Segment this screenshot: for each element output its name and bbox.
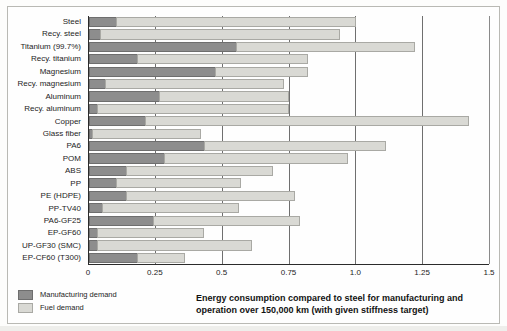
bar-segment	[97, 240, 252, 250]
bar-segment	[89, 116, 145, 126]
y-axis-label: Recy. steel	[0, 28, 85, 40]
bar-segment	[204, 141, 386, 151]
bar-segment	[137, 253, 185, 263]
bar-segment	[126, 166, 273, 176]
bar-row[interactable]	[89, 115, 489, 127]
bar-segment	[116, 178, 242, 188]
legend-item[interactable]: Fuel demand	[18, 301, 188, 314]
bar-segment	[89, 203, 102, 213]
y-axis-label: Titanium (99.7%)	[0, 41, 85, 53]
bar-segment	[126, 191, 294, 201]
bar-row[interactable]	[89, 103, 489, 115]
bar-segment	[89, 54, 137, 64]
bar-segment	[145, 116, 468, 126]
bar-row[interactable]	[89, 90, 489, 102]
y-axis-label: PP-TV40	[0, 203, 85, 215]
scan-edge-shading	[0, 326, 507, 331]
bar-row[interactable]	[89, 227, 489, 239]
bar-segment	[100, 29, 341, 39]
x-axis-tick-labels: 00.250.50.751.01.251.5	[88, 268, 489, 282]
bar-row[interactable]	[89, 28, 489, 40]
bar-segment	[89, 253, 137, 263]
x-axis-tick-label: 0.25	[147, 268, 163, 277]
bar-segment	[89, 17, 116, 27]
bar-row[interactable]	[89, 215, 489, 227]
chart-caption: Energy consumption compared to steel for…	[196, 292, 486, 316]
bar-segment	[89, 104, 97, 114]
y-axis-label: UP-GF30 (SMC)	[0, 240, 85, 252]
y-axis-label: PE (HDPE)	[0, 190, 85, 202]
bar-segment	[89, 191, 126, 201]
bar-segment	[215, 67, 309, 77]
bar-row[interactable]	[89, 252, 489, 264]
y-axis-label: Recy. magnesium	[0, 78, 85, 90]
bar-row[interactable]	[89, 53, 489, 65]
bar-series-group	[89, 16, 489, 264]
y-axis-label: POM	[0, 153, 85, 165]
bar-row[interactable]	[89, 41, 489, 53]
bar-row[interactable]	[89, 202, 489, 214]
legend-item[interactable]: Manufacturing demand	[18, 288, 188, 301]
bar-segment	[89, 228, 97, 238]
bar-segment	[164, 153, 348, 163]
bar-row[interactable]	[89, 239, 489, 251]
bar-segment	[159, 91, 290, 101]
y-axis-label: PA6	[0, 140, 85, 152]
y-axis-label: Aluminum	[0, 91, 85, 103]
y-axis-label: PP	[0, 178, 85, 190]
bar-row[interactable]	[89, 66, 489, 78]
y-axis-label: Magnesium	[0, 66, 85, 78]
legend-label: Fuel demand	[40, 303, 84, 312]
bar-segment	[89, 79, 105, 89]
bar-segment	[153, 216, 300, 226]
legend-swatch-icon	[18, 303, 33, 313]
bar-row[interactable]	[89, 177, 489, 189]
y-axis-label: Recy. titanium	[0, 53, 85, 65]
y-axis-label: EP-GF60	[0, 227, 85, 239]
y-axis-category-labels: SteelRecy. steelTitanium (99.7%)Recy. ti…	[0, 16, 85, 265]
y-axis-label: EP-CF60 (T300)	[0, 252, 85, 264]
bar-row[interactable]	[89, 78, 489, 90]
bar-segment	[89, 29, 100, 39]
bar-segment	[89, 91, 159, 101]
bar-segment	[105, 79, 284, 89]
bar-segment	[97, 228, 204, 238]
x-axis-tick-label: 1.0	[350, 268, 361, 277]
bar-segment	[102, 203, 238, 213]
bar-segment	[89, 141, 204, 151]
y-axis-label: Recy. aluminum	[0, 103, 85, 115]
y-axis-label: PA6-GF25	[0, 215, 85, 227]
bar-row[interactable]	[89, 190, 489, 202]
x-axis-tick-label: 1.25	[414, 268, 430, 277]
bar-segment	[89, 240, 97, 250]
bar-segment	[97, 104, 289, 114]
caption-line-1: Energy consumption compared to steel for…	[196, 292, 486, 304]
gridline-1.5	[489, 16, 490, 264]
x-axis-tick-label: 0.5	[216, 268, 227, 277]
bar-row[interactable]	[89, 128, 489, 140]
caption-line-2: operation over 150,000 km (with given st…	[196, 304, 486, 316]
x-axis-tick-label: 0.75	[281, 268, 297, 277]
bar-row[interactable]	[89, 152, 489, 164]
y-axis-label: Glass fiber	[0, 128, 85, 140]
y-axis-label: ABS	[0, 165, 85, 177]
y-axis-label: Copper	[0, 116, 85, 128]
chart-legend: Manufacturing demandFuel demand	[18, 288, 188, 314]
bar-row[interactable]	[89, 140, 489, 152]
x-axis-tick-label: 1.5	[483, 268, 494, 277]
bar-row[interactable]	[89, 16, 489, 28]
y-axis-label: Steel	[0, 16, 85, 28]
plot-area	[88, 16, 489, 265]
bar-segment	[89, 178, 116, 188]
bar-segment	[89, 216, 153, 226]
figure-container: SteelRecy. steelTitanium (99.7%)Recy. ti…	[0, 0, 507, 331]
bar-row[interactable]	[89, 165, 489, 177]
bar-segment	[236, 42, 415, 52]
legend-swatch-icon	[18, 290, 33, 300]
legend-label: Manufacturing demand	[40, 290, 117, 299]
bar-segment	[137, 54, 308, 64]
x-axis-tick-label: 0	[86, 268, 90, 277]
bar-segment	[89, 42, 236, 52]
bar-segment	[116, 17, 357, 27]
bar-segment	[89, 67, 215, 77]
